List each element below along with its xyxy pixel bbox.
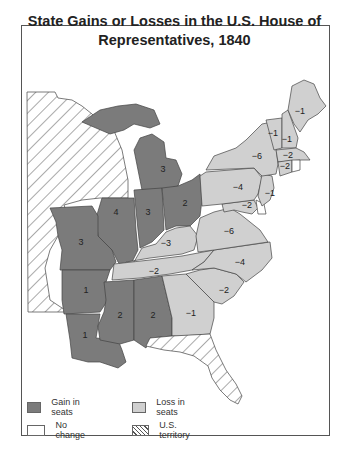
label-georgia: −1 xyxy=(186,308,196,318)
legend-gain-label: Gain in seats xyxy=(51,397,81,417)
legend-gain: Gain in seats xyxy=(27,397,82,417)
label-tennessee: −2 xyxy=(149,266,159,276)
label-kentucky: −3 xyxy=(161,238,171,248)
state-michigan xyxy=(134,134,182,190)
gain-swatch xyxy=(27,402,41,413)
legend-territory-label: U.S. territory xyxy=(159,420,195,440)
label-vermont: −1 xyxy=(268,128,278,138)
state-pennsylvania xyxy=(200,168,262,206)
label-pennsylvania: −4 xyxy=(233,182,243,192)
label-mississippi: 2 xyxy=(117,310,122,320)
no-change-swatch xyxy=(27,425,45,436)
label-north-carolina: −4 xyxy=(235,257,245,267)
legend-loss-label: Loss in seats xyxy=(156,397,186,417)
label-virginia: −6 xyxy=(224,226,234,236)
label-ohio: 2 xyxy=(182,198,187,208)
label-new-york: −6 xyxy=(252,151,262,161)
label-missouri: 3 xyxy=(78,237,83,247)
label-connecticut: −2 xyxy=(280,161,290,171)
label-new-hampshire: −1 xyxy=(282,134,292,144)
label-massachusetts: −2 xyxy=(283,150,293,160)
territory-florida xyxy=(146,334,242,404)
label-illinois: 4 xyxy=(113,207,118,217)
label-maine: −1 xyxy=(295,106,305,116)
label-indiana: 3 xyxy=(145,207,150,217)
legend-territory: U.S. territory xyxy=(132,420,196,440)
loss-swatch xyxy=(132,402,146,413)
label-maryland: −2 xyxy=(242,200,252,210)
label-louisiana: 1 xyxy=(82,330,87,340)
label-arkansas: 1 xyxy=(83,285,88,295)
legend-loss: Loss in seats xyxy=(132,397,187,417)
label-south-carolina: −2 xyxy=(219,285,229,295)
label-michigan: 3 xyxy=(160,164,165,174)
state-rhode-island xyxy=(292,160,300,172)
legend-no-change-label: No change xyxy=(55,420,89,440)
label-new-jersey: −1 xyxy=(265,188,275,198)
state-maine xyxy=(288,80,326,132)
map-svg: −1 −1 −1 −2 −2 −6 −4 −1 −2 −6 −4 −2 −1 2… xyxy=(0,0,349,457)
legend-no-change: No change xyxy=(27,420,90,440)
territory-swatch xyxy=(132,425,149,436)
state-indiana xyxy=(134,188,164,248)
label-alabama: 2 xyxy=(150,310,155,320)
